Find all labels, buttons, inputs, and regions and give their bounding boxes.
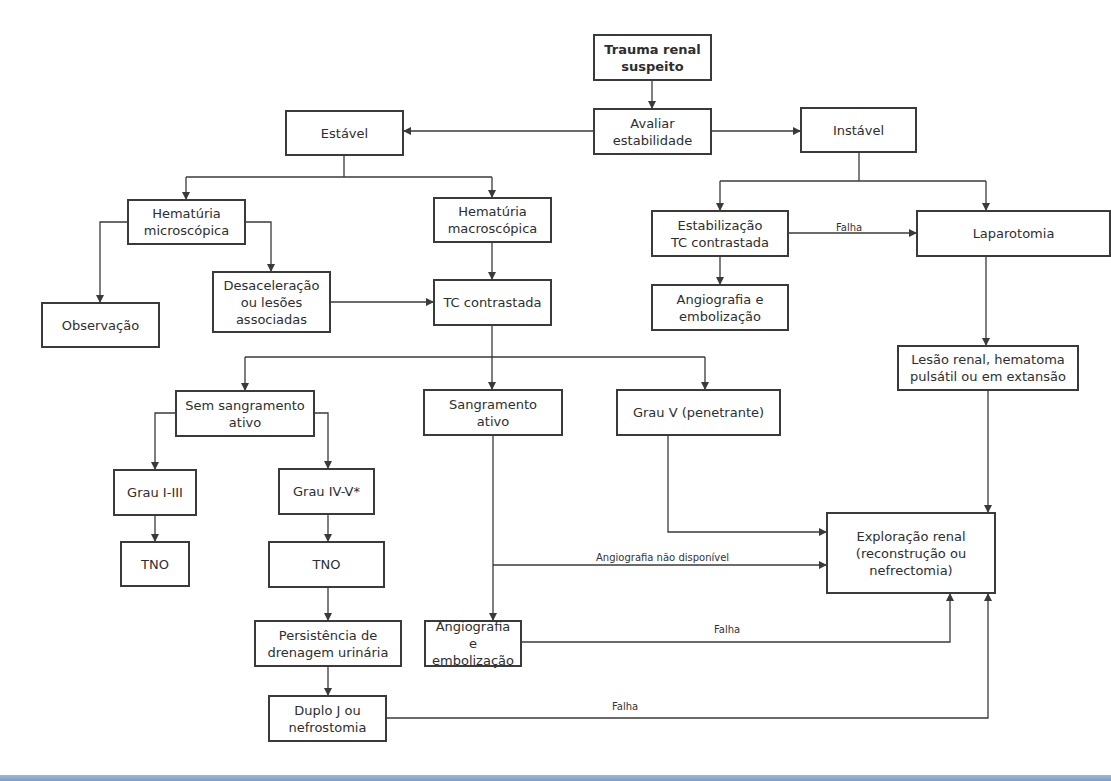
edge-label-falha-angiografia: Falha — [714, 624, 740, 635]
node-estavel: Estável — [285, 110, 404, 156]
node-hematuria-microscopica: Hematúria microscópica — [127, 199, 246, 245]
node-angiografia-embolizacao-1: Angiografia e embolização — [651, 284, 789, 331]
node-hematuria-macroscopica: Hematúria macroscópica — [433, 197, 552, 243]
node-sangramento-ativo: Sangramento ativo — [423, 389, 563, 436]
node-desaceleracao: Desaceleração ou lesões associadas — [212, 271, 331, 333]
node-grau-v-penetrante: Grau V (penetrante) — [616, 389, 781, 436]
edge-label-angiografia-nao-disponivel: Angiografia não disponível — [596, 552, 729, 563]
node-instavel: Instável — [800, 107, 917, 153]
node-tno-2: TNO — [268, 541, 385, 588]
node-persistencia-drenagem: Persistência de drenagem urinária — [254, 620, 402, 667]
node-tc-contrastada: TC contrastada — [433, 279, 552, 326]
node-angiografia-embolizacao-2: Angiografia e embolização — [424, 620, 522, 667]
node-duplo-j-nefrostomia: Duplo J ou nefrostomia — [268, 695, 387, 742]
node-avaliar-estabilidade: Avaliar estabilidade — [593, 108, 712, 155]
node-laparotomia: Laparotomia — [916, 210, 1111, 257]
node-trauma-renal-suspeito: Trauma renal suspeito — [593, 34, 712, 81]
connector-sem-grau45 — [315, 413, 328, 468]
edge-label-falha-duplo-j: Falha — [612, 701, 638, 712]
connector-micro-desacel — [246, 222, 271, 271]
edge-label-falha-laparotomia: Falha — [836, 222, 862, 233]
node-grau-iv-v: Grau IV-V* — [278, 468, 375, 515]
node-tno-1: TNO — [120, 541, 190, 587]
connector-micro-obs — [100, 222, 127, 302]
node-lesao-renal-hematoma: Lesão renal, hematoma pulsátil ou em ext… — [897, 345, 1079, 391]
node-observacao: Observação — [41, 302, 160, 348]
node-sem-sangramento-ativo: Sem sangramento ativo — [175, 390, 315, 437]
connector-sem-grau13 — [155, 413, 175, 469]
flowchart-canvas: Trauma renal suspeito Avaliar estabilida… — [0, 0, 1111, 781]
connector-grau-v-explor — [668, 436, 826, 532]
node-estabilizacao-tc: Estabilização TC contrastada — [651, 210, 789, 257]
node-exploracao-renal: Exploração renal (reconstrução ou nefrec… — [826, 512, 996, 594]
bottom-accent-bar — [0, 775, 1111, 781]
node-grau-i-iii: Grau I-III — [113, 469, 197, 516]
